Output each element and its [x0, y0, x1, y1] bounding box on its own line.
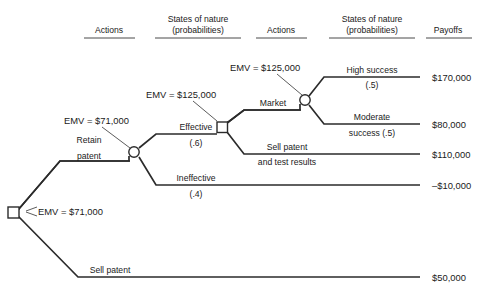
leader-root-emv	[26, 207, 37, 211]
payoff-high-success: $170,000	[432, 72, 471, 83]
tree-branches	[18, 77, 420, 277]
payoff-sell-patent-test: $110,000	[432, 149, 470, 160]
column-header-states-1: States of nature (probabilities)	[155, 14, 241, 38]
payoff-moderate-success: $80,000	[432, 119, 466, 130]
branch-label-ineffective-line2: (.4)	[190, 189, 203, 199]
branch-effective	[139, 134, 217, 148]
emv-root-label: EMV = $71,000	[38, 206, 103, 217]
column-header-actions-2-label: Actions	[267, 25, 295, 35]
branch-label-retain-patent-line2: patent	[77, 151, 102, 161]
branch-label-effective-line2: (.6)	[190, 138, 203, 148]
column-header-states-2-line1: States of nature	[342, 14, 403, 24]
column-header-states-2-line2: (probabilities)	[346, 25, 398, 35]
column-headers: Actions States of nature (probabilities)…	[84, 14, 472, 38]
branch-label-high-success-line2: (.5)	[366, 80, 379, 90]
decision-tree-diagram: Actions States of nature (probabilities)…	[0, 0, 481, 293]
node-retain-chance-circle[interactable]	[129, 147, 139, 157]
column-header-actions-1-label: Actions	[95, 25, 123, 35]
column-header-states-2: States of nature (probabilities)	[329, 14, 415, 38]
emv-effective-decision-label: EMV = $125,000	[146, 89, 216, 100]
column-header-actions-2: Actions	[256, 25, 307, 38]
column-header-states-1-line1: States of nature	[168, 14, 229, 24]
payoff-ineffective: –$10,000	[432, 180, 471, 191]
branch-label-sell-patent-test-line1: Sell patent	[267, 142, 308, 152]
leader-market-chance-emv	[277, 74, 302, 95]
emv-retain-chance-label: EMV = $71,000	[64, 115, 129, 126]
node-effective-decision-square[interactable]	[217, 122, 228, 133]
branch-label-moderate-success-line2: success (.5)	[349, 128, 395, 138]
branch-label-effective-line1: Effective	[180, 122, 213, 132]
node-market-chance-circle[interactable]	[300, 95, 310, 105]
column-header-payoffs: Payoffs	[426, 25, 472, 38]
branch-label-market: Market	[260, 98, 287, 108]
branch-label-moderate-success-line1: Moderate	[354, 112, 391, 122]
branch-retain-patent	[18, 156, 129, 210]
column-header-states-1-line2: (probabilities)	[172, 25, 224, 35]
payoff-sell-patent: $50,000	[432, 272, 466, 283]
branch-label-sell-patent-test-line2: and test results	[258, 157, 316, 167]
branch-high-success	[309, 77, 420, 96]
leader-retain-chance-emv	[102, 127, 130, 148]
payoff-labels: $170,000 $80,000 $110,000 –$10,000 $50,0…	[432, 72, 471, 283]
branch-label-retain-patent-line1: Retain	[77, 135, 102, 145]
branch-label-high-success-line1: High success	[346, 65, 397, 75]
column-header-payoffs-label: Payoffs	[434, 25, 463, 35]
branch-label-ineffective-line1: Ineffective	[176, 173, 215, 183]
branch-retain-patent-stem	[18, 161, 130, 210]
branch-label-sell-patent: Sell patent	[90, 265, 131, 275]
branch-labels: Retain patent Effective (.6) Ineffective…	[77, 65, 398, 275]
column-header-actions-1: Actions	[84, 25, 135, 38]
leader-root-emv-secondary	[26, 212, 37, 216]
node-root-decision-square[interactable]	[8, 207, 19, 218]
emv-market-chance-label: EMV = $125,000	[230, 62, 300, 73]
branch-sell-patent	[18, 216, 420, 277]
leader-effective-decision-emv	[193, 101, 217, 121]
branch-market-stem	[227, 110, 301, 123]
